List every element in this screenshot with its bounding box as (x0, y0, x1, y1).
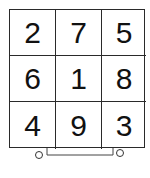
grid-cell-r1c1: 2 (10, 10, 56, 56)
grid-cell-r2c1: 6 (10, 56, 56, 102)
left-wheel-icon (36, 152, 43, 159)
grid-cell-r3c1: 4 (10, 102, 56, 149)
grid-cell-r2c2: 1 (56, 56, 102, 102)
grid-cell-r1c2: 7 (56, 10, 102, 56)
grid-cell-r2c3: 8 (102, 56, 146, 102)
grid-cell-r1c3: 5 (102, 10, 146, 56)
number-grid: 2 7 5 6 1 8 4 9 3 (9, 9, 145, 148)
grid-cell-r3c3: 3 (102, 102, 146, 149)
grid-cell-r3c2: 9 (56, 102, 102, 149)
cart-axle-bracket (47, 148, 113, 155)
right-wheel-icon (117, 150, 124, 157)
